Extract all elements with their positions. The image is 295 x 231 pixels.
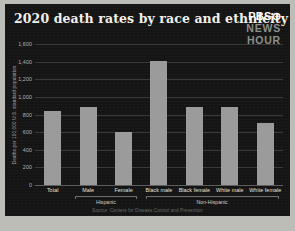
group-bracket-cap [278,196,279,199]
group-bracket-cap [146,196,147,199]
pbs-newshour-logo: PBS⊙ NEWS HOUR [246,11,281,45]
bar-slot [36,44,70,185]
bar-slot [142,44,176,185]
logo-line-pbs: PBS⊙ [246,11,281,22]
y-tick-label: 0 [29,182,32,188]
group-label: Hispanic [96,199,116,205]
group-label: Non-Hispanic [197,199,228,205]
group-bracket-line [146,196,278,197]
bar-slot [213,44,247,185]
group-bracket-cap [75,196,76,199]
bar-slot [248,44,282,185]
y-tick-label: 200 [23,164,32,170]
bar[interactable] [221,107,238,185]
y-tick-label: 1,200 [18,76,32,82]
y-axis-ticks: 1,6001,4001,2001,0008006004002000 [5,44,32,185]
plot-area [35,44,283,185]
bar[interactable] [44,111,61,185]
bar-slot [71,44,105,185]
bar[interactable] [115,132,132,185]
y-tick-label: 400 [23,147,32,153]
gridline-0 [35,185,283,186]
bar[interactable] [150,61,167,185]
y-tick-label: 1,000 [18,94,32,100]
bar-slot [177,44,211,185]
bar-slot [107,44,141,185]
screenshot-frame: 2020 death rates by race and ethnicity P… [0,0,295,231]
chart-card: 2020 death rates by race and ethnicity P… [5,4,290,216]
group-bracket-line [75,196,136,197]
group-bracket-cap [136,196,137,199]
bar[interactable] [257,123,274,185]
y-tick-label: 1,600 [18,41,32,47]
y-tick-label: 800 [23,112,32,118]
bar[interactable] [80,107,97,185]
source-note: Source: Centers for Disease Control and … [5,208,290,213]
y-tick-label: 1,400 [18,59,32,65]
bar-series [35,44,283,185]
logo-line-news: NEWS [246,23,281,34]
bar[interactable] [186,107,203,185]
y-tick-label: 600 [23,129,32,135]
